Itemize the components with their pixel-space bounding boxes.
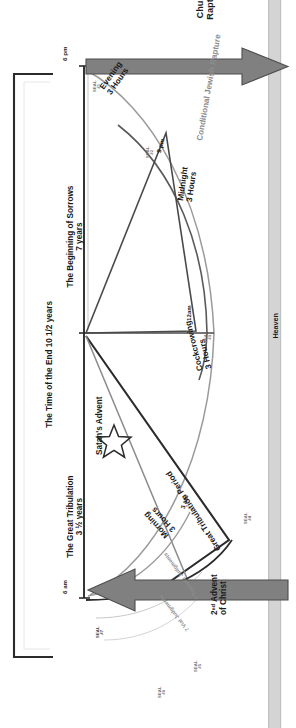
seal-marker-4: SEAL #4: [244, 512, 252, 524]
great-tribulation-label: The Great Tribulation 3 ½ years: [67, 447, 84, 587]
seal-5-line2: #5: [197, 664, 202, 669]
satans-advent-label: Satan's Advent: [96, 365, 105, 455]
church-rapture-line1: Church: [195, 0, 205, 18]
second-advent-line2: of Christ: [219, 581, 228, 615]
time-marker-6pm: 6 pm: [62, 47, 69, 61]
church-rapture-line2: Rapture: [205, 0, 215, 20]
second-advent-line1: 2ⁿᵈ Advent: [210, 574, 219, 615]
seal-marker-6: SEAL #6: [158, 686, 166, 698]
seal-marker-5: SEAL #5: [194, 660, 202, 672]
heaven-band-edge-left: [268, 0, 269, 728]
seal-marker-2: SEAL #2: [146, 146, 154, 158]
seal-6-line2: #6: [161, 690, 166, 695]
beginning-of-sorrows-years: 7 years: [75, 223, 84, 251]
seal-7-line2: #7: [99, 630, 104, 635]
heaven-band: [268, 0, 281, 728]
seal-marker-3: SEAL #3: [204, 331, 212, 343]
beginning-of-sorrows-label: The Beginning of Sorrows 7 years: [67, 157, 84, 317]
seal-marker-7: SEAL #7: [96, 626, 104, 638]
heaven-label: Heaven: [272, 298, 280, 354]
heaven-band-edge-right: [280, 0, 281, 728]
great-tribulation-years: 3 ½ years: [75, 498, 84, 535]
prophecy-timeline-diagram: The Time of the End 10 1/2 years The Beg…: [0, 0, 296, 728]
seal-marker-1: SEAL #1: [93, 80, 101, 92]
time-marker-6am: 6 am: [62, 580, 69, 594]
seal-4-line2: #4: [247, 516, 252, 521]
time-of-the-end-label: The Time of the End 10 1/2 years: [46, 264, 55, 464]
seal-2-line2: #2: [149, 150, 154, 155]
seal-3-line2: #3: [207, 335, 212, 340]
seal-1-line2: #1: [96, 84, 101, 89]
